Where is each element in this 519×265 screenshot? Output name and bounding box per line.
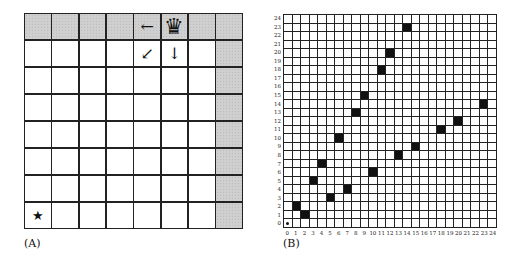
grid-cell	[335, 32, 343, 40]
grid-cell	[403, 41, 411, 49]
grid-cell	[480, 117, 488, 125]
grid-cell	[454, 151, 462, 159]
grid-cell	[420, 160, 428, 168]
grid-cell	[446, 75, 454, 83]
grid-cell	[471, 66, 479, 74]
grid-cell	[437, 160, 445, 168]
grid-cell	[369, 219, 377, 227]
grid-cell	[335, 126, 343, 134]
grid-cell	[488, 92, 496, 100]
grid-cell	[301, 185, 309, 193]
grid-cell	[369, 211, 377, 219]
board-cell	[107, 176, 133, 201]
grid-cell	[318, 109, 326, 117]
grid-cell	[471, 194, 479, 202]
grid-cell	[403, 15, 411, 23]
board-cell	[134, 122, 160, 147]
grid-cell	[327, 177, 335, 185]
x-tick-label: 5	[326, 230, 335, 236]
y-tick-label: 12	[266, 117, 281, 126]
y-tick-label: 18	[266, 65, 281, 74]
grid-cell	[488, 151, 496, 159]
grid-cell	[454, 75, 462, 83]
x-tick-label: 7	[343, 230, 352, 236]
grid-cell	[284, 143, 292, 151]
grid-cell	[463, 75, 471, 83]
grid-cell	[369, 75, 377, 83]
grid-cell	[310, 58, 318, 66]
grid-cell	[386, 15, 394, 23]
grid-cell	[310, 219, 318, 227]
grid-cell	[446, 151, 454, 159]
grid-cell	[301, 151, 309, 159]
grid-cell	[293, 15, 301, 23]
grid-cell	[480, 177, 488, 185]
grid-cell	[395, 211, 403, 219]
grid-cell	[369, 143, 377, 151]
grid-cell	[446, 109, 454, 117]
grid-cell	[310, 134, 318, 142]
grid-cell	[361, 41, 369, 49]
grid-cell	[369, 109, 377, 117]
grid-cell	[488, 134, 496, 142]
grid-cell	[293, 219, 301, 227]
grid-cell	[429, 126, 437, 134]
grid-cell	[420, 126, 428, 134]
y-tick-label: 22	[266, 31, 281, 40]
grid-cell	[454, 160, 462, 168]
grid-cell	[344, 24, 352, 32]
grid-cell	[412, 24, 420, 32]
board-cell	[162, 68, 188, 93]
grid-cell	[318, 49, 326, 57]
grid-cell	[454, 211, 462, 219]
grid-cell	[310, 194, 318, 202]
grid-cell	[386, 202, 394, 210]
y-tick-label: 13	[266, 108, 281, 117]
grid-cell	[471, 185, 479, 193]
grid-cell	[318, 41, 326, 49]
filled-cell	[403, 24, 411, 32]
grid-cell	[352, 92, 360, 100]
grid-cell	[335, 75, 343, 83]
grid-cell	[386, 151, 394, 159]
grid-cell	[361, 160, 369, 168]
grid-cell	[352, 117, 360, 125]
board-cell	[189, 122, 215, 147]
grid-cell	[386, 75, 394, 83]
y-tick-label: 2	[266, 202, 281, 211]
board-cell	[25, 122, 51, 147]
grid-cell	[335, 92, 343, 100]
grid-cell	[344, 109, 352, 117]
grid-cell	[403, 92, 411, 100]
x-tick-label: 2	[300, 230, 309, 236]
grid-cell	[446, 143, 454, 151]
grid-cell	[284, 151, 292, 159]
grid-cell	[378, 177, 386, 185]
grid-cell	[429, 211, 437, 219]
grid-cell	[301, 202, 309, 210]
board-cell	[80, 68, 106, 93]
filled-cell	[327, 194, 335, 202]
grid-cell	[335, 41, 343, 49]
grid-cell	[378, 185, 386, 193]
grid-cell	[429, 41, 437, 49]
grid-cell	[310, 15, 318, 23]
x-tick-label: 21	[463, 230, 472, 236]
grid-cell	[318, 66, 326, 74]
grid-cell	[420, 211, 428, 219]
board-cell: ★	[25, 203, 51, 228]
grid-cell	[488, 219, 496, 227]
grid-cell	[437, 168, 445, 176]
grid-cell	[471, 92, 479, 100]
grid-cell	[412, 49, 420, 57]
grid-cell	[369, 32, 377, 40]
grid-cell	[446, 92, 454, 100]
grid-cell	[488, 24, 496, 32]
grid-cell	[446, 49, 454, 57]
grid-cell	[344, 202, 352, 210]
panel-b-coordinate-grid: 2423222120191817161514131211109876543210…	[260, 0, 519, 265]
grid-cell	[454, 58, 462, 66]
grid-cell	[437, 194, 445, 202]
grid-cell	[446, 100, 454, 108]
grid-cell	[429, 83, 437, 91]
